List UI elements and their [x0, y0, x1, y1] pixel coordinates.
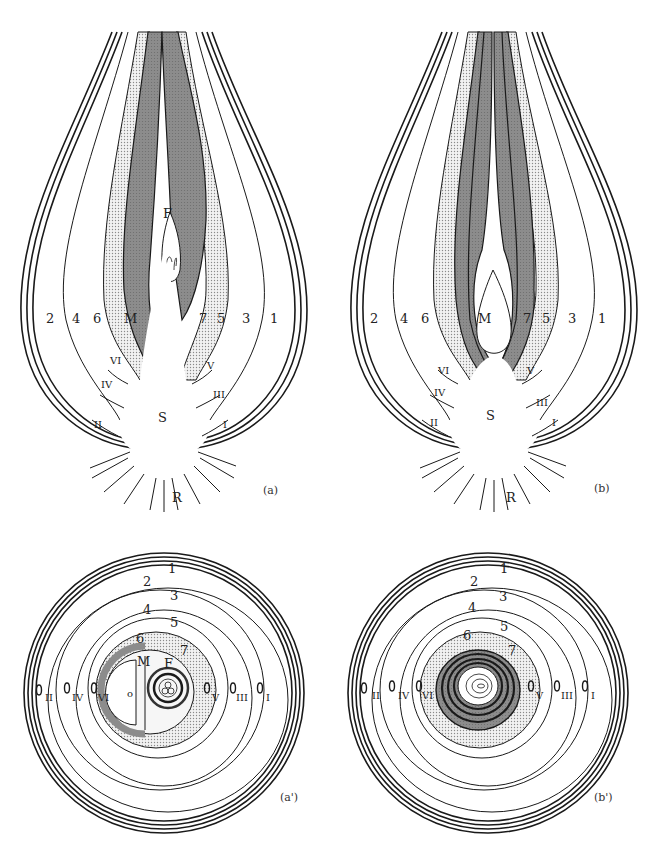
scale-label-6: 6 [463, 628, 471, 643]
inner-label-o: o [127, 688, 133, 699]
scale-label-4: 4 [72, 311, 80, 326]
scale-label-6: 6 [93, 311, 101, 326]
bud-label-IV: IV [434, 387, 446, 398]
bud-label-VI: VI [97, 692, 109, 703]
bud-label-I: I [266, 692, 270, 703]
panel-a-prime: o 1 2 3 4 5 6 7 M F I [24, 553, 304, 833]
bud-label-II: II [45, 692, 53, 703]
scale-label-2: 2 [143, 574, 151, 589]
flower-label: F [163, 206, 172, 221]
bud-label-I: I [552, 417, 556, 428]
scale-label-2: 2 [370, 311, 378, 326]
scale-label-1: 1 [598, 311, 606, 326]
scale-label-4: 4 [400, 311, 408, 326]
stem-label: S [158, 410, 167, 425]
bud-label-VI: VI [109, 355, 121, 366]
bud-label-III: III [213, 389, 225, 400]
scale-label-1: 1 [168, 561, 176, 576]
panel-caption-a-prime: (a') [280, 791, 298, 804]
scale-label-5: 5 [217, 311, 225, 326]
bud-label-II: II [372, 690, 380, 701]
onion-bulb-diagram: 2 4 6 M 7 5 3 1 VI V IV III II I S R F (… [0, 0, 653, 864]
bud-label-V: V [206, 360, 215, 371]
bud-label-IV: IV [398, 690, 410, 701]
bud-label-III: III [561, 690, 573, 701]
scale-label-3: 3 [170, 588, 178, 603]
panel-caption-b-prime: (b') [594, 791, 613, 804]
bud-label-V: V [211, 692, 220, 703]
scale-label-2: 2 [46, 311, 54, 326]
main-bud-label: M [124, 311, 137, 326]
scale-label-7: 7 [180, 643, 188, 658]
scale-label-6: 6 [136, 631, 144, 646]
bud-label-II: II [94, 419, 102, 430]
panel-b: 2 4 6 M 7 5 3 1 VI V IV III II I S R (b) [351, 32, 637, 512]
scale-label-5: 5 [500, 619, 508, 634]
panel-caption-a: (a) [263, 484, 278, 497]
roots-label: R [506, 490, 517, 505]
scale-label-2: 2 [470, 574, 478, 589]
scale-label-7: 7 [508, 643, 516, 658]
scale-label-5: 5 [170, 615, 178, 630]
bud-label-V: V [535, 690, 544, 701]
scale-label-7: 7 [523, 311, 531, 326]
scale-label-3: 3 [568, 311, 576, 326]
bud-label-VI: VI [421, 690, 433, 701]
bud-label-III: III [236, 692, 248, 703]
panel-caption-b: (b) [594, 482, 610, 495]
scale-label-1: 1 [500, 561, 508, 576]
scale-label-3: 3 [242, 311, 250, 326]
bud-label-I: I [591, 690, 595, 701]
main-bud-label: M [137, 654, 150, 669]
roots-label: R [172, 490, 183, 505]
bud-label-V: V [526, 365, 535, 376]
bud-label-VI: VI [437, 365, 449, 376]
panel-b-prime: 1 2 3 4 5 6 7 II IV VI V III I (b') [348, 553, 628, 833]
scale-label-1: 1 [270, 311, 278, 326]
bud-label-IV: IV [72, 692, 84, 703]
flower-label: F [164, 656, 173, 671]
bud-label-I: I [223, 419, 227, 430]
scale-label-4: 4 [143, 602, 151, 617]
main-bud-label: M [478, 311, 491, 326]
bud-label-II: II [430, 417, 438, 428]
stem-label: S [486, 408, 495, 423]
bud-label-III: III [536, 397, 548, 408]
scale-label-6: 6 [421, 311, 429, 326]
scale-label-3: 3 [499, 589, 507, 604]
scale-label-7: 7 [199, 311, 207, 326]
panel-a: 2 4 6 M 7 5 3 1 VI V IV III II I S R F (… [21, 32, 307, 512]
scale-label-5: 5 [542, 311, 550, 326]
scale-label-4: 4 [468, 600, 476, 615]
bud-label-IV: IV [101, 379, 113, 390]
